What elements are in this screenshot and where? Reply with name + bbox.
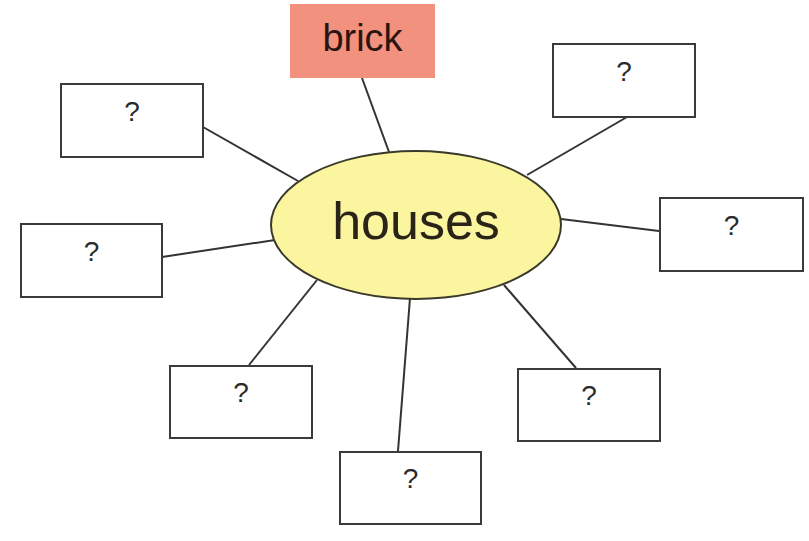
node-top-left: ?	[60, 83, 204, 158]
connector-bottom-right	[504, 285, 576, 368]
connector-top	[362, 78, 389, 152]
node-top-right: ?	[552, 43, 696, 118]
node-left: ?	[20, 223, 163, 298]
connector-right	[561, 219, 659, 231]
connector-bottom	[398, 298, 410, 451]
node-bottom: ?	[339, 451, 482, 525]
connector-bottom-left	[249, 280, 317, 365]
connector-top-left	[203, 127, 298, 181]
center-node-houses: houses	[270, 150, 562, 300]
connector-left	[162, 240, 275, 257]
node-bottom-right: ?	[517, 368, 661, 442]
node-bottom-left: ?	[169, 365, 313, 439]
node-right: ?	[659, 197, 804, 272]
connector-top-right	[527, 117, 627, 175]
node-brick: brick	[290, 4, 435, 78]
